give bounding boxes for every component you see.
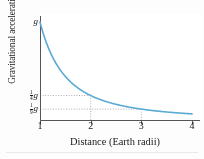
y-axis-title: Gravitational acceleration [7,0,17,93]
y-axis-tick-label-ninth-g: 19g [0,103,41,115]
x-axis-title: Distance (Earth radii) [30,136,200,147]
y-axis-tick-label-quarter-g: 14g [0,90,41,102]
x-axis-tick-label: 2 [83,120,99,131]
x-axis-tick-label: 3 [133,120,149,131]
page-divider [6,152,198,153]
x-axis-tick-label: 1 [32,120,48,131]
y-axis-tick-label-g: g [0,16,41,26]
x-axis-tick-label: 4 [184,120,200,131]
gravitational-acceleration-figure: Gravitational acceleration Distance (Ear… [0,0,204,159]
